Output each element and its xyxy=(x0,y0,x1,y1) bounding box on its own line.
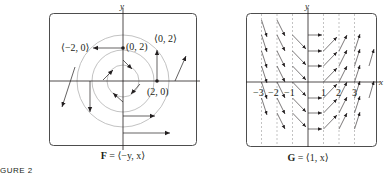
y-axis-label: y xyxy=(304,1,309,11)
right-caption-symbol: G xyxy=(287,152,295,163)
right-caption-formula: = ⟨1, x⟩ xyxy=(295,152,328,163)
right-vector-field-panel: y x −3 −2 −1 1 2 3 xyxy=(240,0,385,160)
x-axis-label: x xyxy=(378,77,383,87)
y-axis-label: y xyxy=(119,1,124,11)
tick-label-neg3: −3 xyxy=(253,87,264,98)
tick-label-neg2: −2 xyxy=(268,87,279,98)
point-0-2 xyxy=(121,46,125,50)
annotation-vector-neg2-0: ⟨−2, 0⟩ xyxy=(61,42,90,53)
point-2-0 xyxy=(155,79,159,83)
annotation-vector-0-2: ⟨0, 2⟩ xyxy=(154,33,177,44)
right-vector-field-plot: y x −3 −2 −1 1 2 3 xyxy=(240,0,385,160)
tick-label-neg1: −1 xyxy=(284,87,295,98)
tick-label-3: 3 xyxy=(352,87,357,98)
left-caption: F = ⟨−y, x⟩ xyxy=(98,150,148,161)
right-caption: G = ⟨1, x⟩ xyxy=(283,152,333,163)
tick-label-1: 1 xyxy=(321,87,326,98)
left-caption-formula: = ⟨−y, x⟩ xyxy=(107,150,145,161)
left-vector-field-panel: y x ⟨−2, 0⟩ (0, 2) ⟨0, 2⟩ (2, 0) xyxy=(0,0,200,160)
tick-label-2: 2 xyxy=(336,87,341,98)
annotation-point-0-2: (0, 2) xyxy=(126,41,148,53)
vectors xyxy=(262,20,375,129)
left-vector-field-plot: y x ⟨−2, 0⟩ (0, 2) ⟨0, 2⟩ (2, 0) xyxy=(0,0,200,160)
figure-label: GURE 2 xyxy=(0,166,33,173)
annotation-point-2-0: (2, 0) xyxy=(147,86,169,98)
